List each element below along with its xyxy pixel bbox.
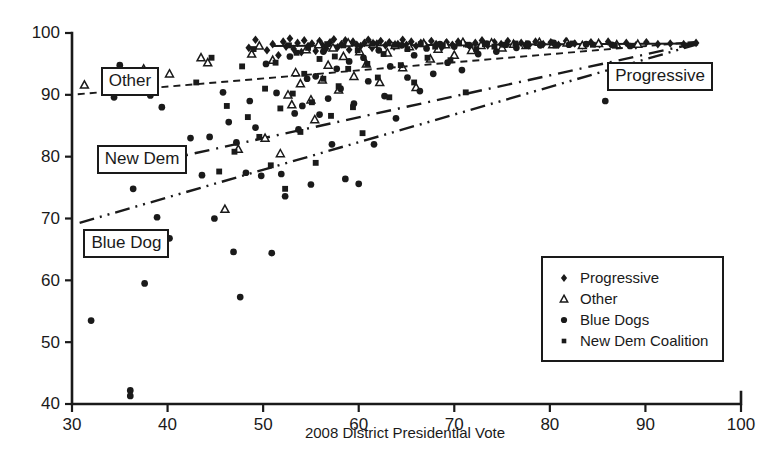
point-triangle (634, 40, 642, 47)
point-square (309, 99, 315, 105)
point-diamond (654, 40, 661, 49)
trend-line-blue-dog (80, 44, 698, 223)
point-square (216, 169, 222, 175)
x-tick-label: 100 (727, 415, 755, 434)
point-square (612, 42, 618, 48)
point-diamond (275, 51, 282, 60)
point-circle (287, 53, 294, 60)
point-square (209, 55, 215, 61)
legend-label: Other (580, 290, 618, 307)
legend-item: Other (555, 288, 708, 309)
point-circle (206, 134, 213, 141)
y-tick-label: 60 (41, 271, 60, 290)
point-circle (320, 48, 327, 55)
annotation-blue-dog: Blue Dog (83, 229, 169, 258)
x-tick-label: 90 (636, 415, 655, 434)
legend-list: ProgressiveOtherBlue DogsNew Dem Coaliti… (543, 258, 722, 360)
point-circle (316, 111, 323, 118)
point-diamond (667, 39, 674, 48)
point-circle (225, 119, 232, 126)
point-circle (342, 176, 349, 183)
point-square (381, 51, 387, 57)
point-square (473, 46, 479, 52)
x-axis-title: 2008 District Presidential Vote (305, 424, 505, 441)
point-circle (387, 63, 394, 70)
point-square (553, 42, 559, 48)
point-triangle (296, 80, 304, 87)
annotation-new-dem: New Dem (97, 145, 188, 174)
point-square (251, 46, 257, 52)
point-square (324, 41, 330, 47)
point-square (286, 42, 292, 48)
point-triangle (197, 54, 205, 61)
legend: ProgressiveOtherBlue DogsNew Dem Coaliti… (541, 256, 724, 362)
point-circle (158, 104, 165, 111)
point-square (465, 42, 471, 48)
point-square (463, 89, 469, 95)
y-tick-label: 70 (41, 209, 60, 228)
point-square (411, 80, 417, 86)
point-circle (141, 280, 148, 287)
point-triangle (166, 70, 174, 77)
point-square (224, 103, 230, 109)
annotation-other: Other (101, 67, 160, 96)
point-triangle (595, 39, 603, 46)
point-square (350, 104, 356, 110)
point-circle (308, 181, 315, 188)
point-square (482, 41, 488, 47)
scatter-chart: 40506070809010030405060708090100 2008 Di… (0, 0, 779, 465)
point-diamond (264, 46, 271, 55)
point-square (273, 60, 279, 66)
point-triangle (450, 51, 458, 58)
point-circle (273, 90, 280, 97)
point-square (268, 162, 274, 168)
point-circle (602, 98, 609, 105)
point-triangle (80, 81, 88, 88)
legend-item: New Dem Coalition (555, 330, 708, 351)
point-square (290, 91, 296, 97)
point-square (375, 75, 381, 81)
point-circle (561, 316, 567, 322)
point-square (336, 83, 342, 89)
point-circle (88, 317, 95, 324)
point-square (305, 45, 311, 51)
point-square (355, 47, 361, 53)
point-square (562, 338, 567, 343)
x-tick-label: 50 (254, 415, 273, 434)
y-tick-label: 50 (41, 333, 60, 352)
point-square (282, 186, 288, 192)
point-circle (583, 41, 590, 48)
legend-label: Progressive (580, 269, 659, 286)
point-circle (398, 42, 405, 49)
point-diamond (269, 40, 276, 49)
point-circle (371, 141, 378, 148)
point-square (440, 42, 446, 48)
point-circle (211, 215, 218, 222)
point-circle (417, 88, 424, 95)
point-circle (268, 250, 275, 257)
point-circle (411, 52, 418, 59)
point-square (432, 44, 438, 50)
point-square (313, 160, 319, 166)
point-circle (220, 89, 227, 96)
point-circle (325, 95, 332, 102)
point-square (277, 106, 283, 112)
point-square (398, 62, 404, 68)
point-triangle (339, 52, 347, 59)
legend-marker-diamond (555, 269, 573, 287)
point-circle (154, 214, 161, 221)
legend-label: Blue Dogs (580, 311, 649, 328)
point-diamond (301, 36, 308, 45)
point-square (193, 80, 199, 86)
point-square (369, 41, 375, 47)
point-diamond (561, 274, 567, 282)
point-square (328, 113, 334, 119)
point-square (239, 63, 245, 69)
point-circle (243, 169, 250, 176)
point-square (345, 66, 351, 72)
point-circle (365, 78, 372, 85)
legend-label: New Dem Coalition (580, 332, 708, 349)
point-circle (360, 54, 367, 61)
point-circle (230, 249, 237, 256)
point-square (392, 42, 398, 48)
